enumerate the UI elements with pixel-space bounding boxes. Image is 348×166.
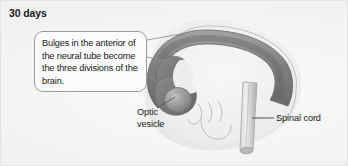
embryo-development-figure: 30 days Bulges in the anterior of the ne… — [0, 0, 348, 166]
callout-box: Bulges in the anterior of the neural tub… — [34, 31, 147, 92]
callout-text: Bulges in the anterior of the neural tub… — [42, 37, 144, 87]
optic-vesicle-shape — [165, 88, 192, 113]
optic-vesicle-label: Optic vesicle — [137, 106, 164, 131]
page-title: 30 days — [9, 7, 47, 19]
spinal-cord-label: Spinal cord — [276, 112, 321, 124]
